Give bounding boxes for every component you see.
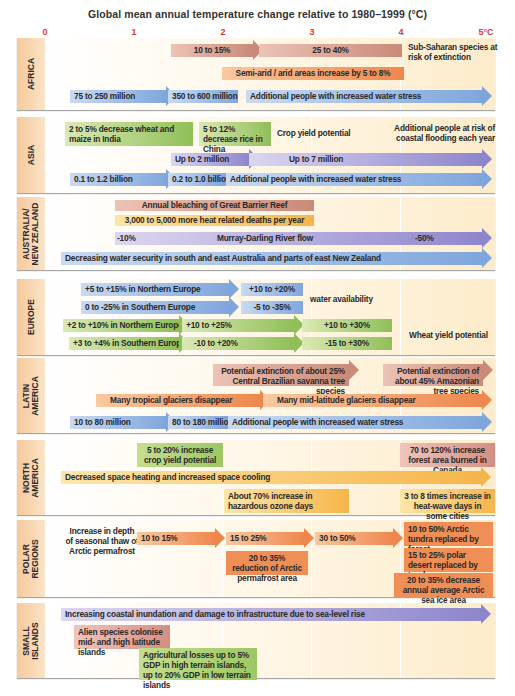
axis-tick-3: 3 (309, 27, 314, 37)
islands-agriculture: Agricultural losses up to 5% GDP in high… (139, 648, 257, 680)
region-label-europe: EUROPE (17, 279, 45, 355)
region-label-africa: AFRICA (17, 38, 45, 110)
polar-tundra: 10 to 50% Arctic tundra replaced by fore… (404, 522, 493, 546)
europe-water-north-2: +10 to +20% (241, 283, 303, 296)
africa-water-1: 75 to 250 million (70, 90, 166, 103)
aus-water-security: Decreasing water security in south and e… (61, 252, 482, 265)
islands-coastal: Increasing coastal inundation and damage… (61, 608, 481, 621)
region-label-north-america: NORTHAMERICA (17, 440, 45, 515)
asia-coastal-2: Up to 7 million (249, 153, 482, 166)
polar-desert: 15 to 25% polar desert replaced by tundr… (404, 548, 493, 572)
namerica-crop: 5 to 20% increase crop yield potential (137, 443, 223, 467)
africa-water-3: Additional people with increased water s… (246, 90, 482, 103)
asia-crop-label: Crop yield potential (277, 128, 350, 138)
region-label-polar: POLARREGIONS (17, 520, 45, 597)
europe-water-south-2: -5 to -35% (241, 301, 303, 314)
polar-thaw-1: 10 to 15% (137, 532, 215, 545)
asia-coastal-1: Up to 2 million (171, 153, 249, 166)
latam-extinction-amazon: Potential extinction of about 45% Amazon… (383, 364, 483, 386)
chart-title: Global mean annual temperature change re… (0, 8, 515, 20)
europe-yield-south-2: -10 to +20% (182, 337, 294, 350)
africa-species-1: 10 to 15% (171, 44, 253, 57)
latam-glaciers-midlatitude: Many mid-latitude glaciers disappear (263, 394, 482, 407)
axis-tick-0: 0 (42, 27, 47, 37)
polar-thaw-3: 30 to 50% (315, 532, 393, 545)
latam-water-2: 80 to 180 million (168, 416, 228, 429)
europe-yield-south-3: -15 to +30% (302, 337, 392, 350)
africa-water-2: 350 to 600 million (168, 90, 238, 103)
section-polar: POLARREGIONS Increase in depth of season… (17, 520, 495, 597)
polar-thaw-2: 15 to 25% (226, 532, 304, 545)
polar-sea-ice: 20 to 35% decrease annual average Arctic… (394, 573, 493, 597)
latam-water-3: Additional people with increased water s… (228, 416, 482, 429)
region-label-australia: AUSTRALIA/NEW ZEALAND (17, 197, 45, 270)
region-label-asia: ASIA (17, 117, 45, 193)
namerica-heatwave: 3 to 8 times increase in heat-wave days … (400, 489, 495, 513)
europe-yield-north-2: +10 to +25% (182, 319, 294, 332)
asia-coastal-label: Additional people at risk of coastal flo… (387, 123, 495, 143)
section-australia: AUSTRALIA/NEW ZEALAND Annual bleaching o… (17, 197, 495, 270)
section-africa: AFRICA 10 to 15% 25 to 40% Sub-Saharan s… (17, 38, 495, 110)
region-label-small-islands: SMALLISLANDS (17, 603, 45, 678)
europe-water-label: water availability (310, 294, 373, 304)
namerica-forest: 70 to 120% increase forest area burned i… (400, 443, 495, 467)
europe-yield-north-3: +10 to +30% (302, 319, 392, 332)
europe-yield-north-1: +2 to +10% in Northern Europe (63, 319, 179, 332)
axis-tick-4: 4 (398, 27, 403, 37)
section-small-islands: SMALLISLANDS Increasing coastal inundati… (17, 603, 495, 678)
aus-reef: Annual bleaching of Great Barrier Reef (115, 200, 314, 211)
axis-tick-1: 1 (131, 27, 136, 37)
islands-alien-species: Alien species colonise mid- and high lat… (74, 625, 170, 649)
latam-water-1: 10 to 80 million (70, 416, 166, 429)
africa-arid: Semi-arid / arid areas increase by 5 to … (222, 67, 404, 80)
asia-water-3: Additional people with increased water s… (226, 173, 482, 186)
asia-water-1: 0.1 to 1.2 billion (70, 173, 166, 186)
europe-yield-south-1: +3 to +4% in Southern Europe (69, 337, 179, 350)
latam-glaciers-tropical: Many tropical glaciers disappear (96, 394, 260, 407)
namerica-heating: Decreased space heating and increased sp… (61, 471, 481, 484)
section-europe: EUROPE +5 to +15% in Northern Europe +10… (17, 279, 495, 355)
asia-water-2: 0.2 to 1.0 billion (168, 173, 226, 186)
asia-crop-india: 2 to 5% decrease wheat and maize in Indi… (65, 122, 193, 146)
europe-water-north-1: +5 to +15% in Northern Europe (81, 283, 229, 296)
polar-thaw-label: Increase in depth of seasonal thaw of Ar… (65, 526, 139, 556)
aus-heat-deaths: 3,000 to 5,000 more heat related deaths … (115, 215, 314, 226)
section-asia: ASIA 2 to 5% decrease wheat and maize in… (17, 117, 495, 193)
section-north-america: NORTHAMERICA 5 to 20% increase crop yiel… (17, 440, 495, 515)
europe-wheat-label: Wheat yield potential (409, 330, 488, 340)
europe-water-south-1: 0 to -25% in Southern Europe (81, 301, 229, 314)
region-label-latin-america: LATINAMERICA (17, 358, 45, 433)
latam-extinction-savanna: Potential extinction of about 25% Centra… (213, 364, 349, 386)
namerica-ozone: About 70% increase in hazardous ozone da… (224, 489, 349, 513)
axis-tick-5: 5°C (478, 27, 493, 37)
axis-tick-2: 2 (220, 27, 225, 37)
aus-flow-end: -50% (415, 232, 434, 245)
polar-permafrost: 20 to 35% reduction of Arctic permafrost… (226, 551, 308, 575)
asia-crop-china: 5 to 12% decrease rice in China (199, 122, 271, 146)
africa-species-2: 25 to 40% (259, 44, 402, 57)
africa-species-label: Sub-Saharan species at risk of extinctio… (408, 42, 498, 62)
aus-flow-start: -10% (117, 232, 136, 245)
aus-river-flow: -10% Murray-Darling River flow -50% (115, 232, 482, 245)
aus-flow-label: Murray-Darling River flow (217, 232, 313, 245)
section-latin-america: LATINAMERICA Potential extinction of abo… (17, 358, 495, 433)
